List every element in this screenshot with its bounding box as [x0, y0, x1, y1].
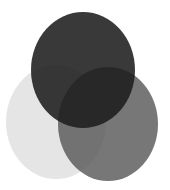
top-ellipse	[31, 12, 135, 128]
venn-diagram	[0, 0, 170, 190]
